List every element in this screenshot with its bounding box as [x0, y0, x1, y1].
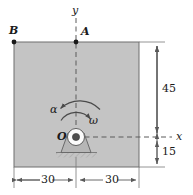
- label-point-B: B: [9, 25, 18, 36]
- point-marker-A: [74, 40, 79, 45]
- label-dim-right-30: 30: [105, 174, 119, 185]
- label-dim-upper-45: 45: [162, 83, 176, 94]
- support-ground-hatch: [56, 153, 97, 158]
- mechanics-figure: B A O y x α ω 30 30 45 15: [0, 0, 193, 195]
- label-point-O: O: [57, 131, 67, 142]
- figure-canvas: [0, 0, 193, 195]
- label-dim-lower-15: 15: [162, 146, 176, 157]
- label-angular-velocity: ω: [89, 115, 98, 126]
- label-angular-acceleration: α: [50, 104, 57, 115]
- label-dim-left-30: 30: [41, 174, 55, 185]
- point-marker-B: [12, 40, 17, 45]
- bearing-hub: [72, 133, 79, 140]
- label-point-A: A: [81, 26, 90, 37]
- label-x-axis: x: [176, 131, 182, 142]
- label-y-axis: y: [72, 5, 78, 16]
